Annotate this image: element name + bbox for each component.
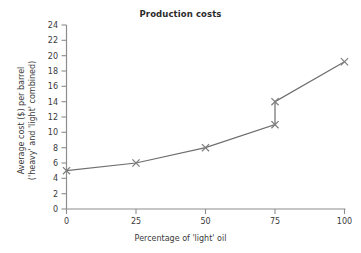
x-tick-label: 50 [200, 217, 210, 226]
y-tick-label: 12 [48, 113, 58, 122]
x-tick-label: 25 [131, 217, 141, 226]
y-tick-label: 2 [53, 190, 58, 199]
plot-area: 0 2 4 6 8 10 12 14 16 18 20 22 24 0 25 5… [0, 0, 361, 253]
x-tick-label: 75 [270, 217, 280, 226]
x-tick-labels: 0 25 50 75 100 [64, 217, 352, 226]
y-tick-label: 14 [48, 98, 58, 107]
y-tick-label: 6 [53, 159, 58, 168]
y-tick-label: 8 [53, 144, 58, 153]
y-tick-label: 4 [53, 174, 58, 183]
data-point-marker [341, 58, 348, 65]
y-axis-label: Average cost ($) per barrel ('heavy' and… [17, 31, 38, 211]
y-tick-label: 24 [48, 21, 58, 30]
y-tick-label: 22 [48, 36, 58, 45]
x-tick-label: 0 [64, 217, 69, 226]
y-tick-label: 10 [48, 128, 58, 137]
y-tick-labels: 0 2 4 6 8 10 12 14 16 18 20 22 24 [48, 21, 58, 214]
chart-figure: Production costs 0 2 4 6 8 [0, 0, 361, 253]
x-tick-label: 100 [337, 217, 352, 226]
y-tick-label: 16 [48, 82, 58, 91]
y-tick-label: 18 [48, 67, 58, 76]
series-polyline [67, 62, 345, 171]
y-tick-label: 0 [53, 205, 58, 214]
y-axis-label-line2: ('heavy' and 'light' combined) [27, 31, 38, 211]
y-tick-label: 20 [48, 52, 58, 61]
y-axis-label-line1: Average cost ($) per barrel [17, 31, 28, 211]
x-tick-marks [67, 209, 345, 214]
x-axis-label: Percentage of 'light' oil [0, 234, 361, 243]
y-tick-marks [62, 25, 67, 209]
data-series-line [63, 58, 348, 174]
